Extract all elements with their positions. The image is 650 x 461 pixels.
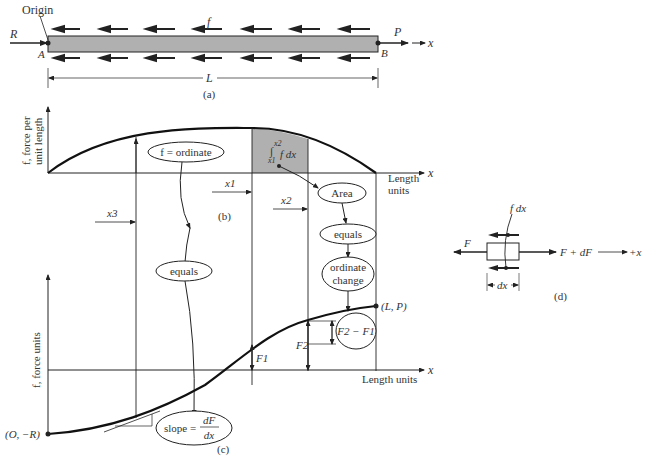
axis-x-label-c: x: [427, 363, 434, 377]
panel-b: x Length units f, force per unit length …: [20, 107, 434, 223]
ordinate-bubble-text: f = ordinate: [160, 146, 212, 158]
axis-x-label-a: x: [427, 36, 434, 50]
axis-x-label-b: x: [427, 166, 434, 180]
origin-leader: [40, 16, 48, 40]
caption-a: (a): [203, 88, 216, 101]
length-label: L: [205, 71, 213, 85]
bar: [48, 36, 378, 52]
ordinate-change-line2: change: [332, 274, 363, 286]
distributed-load-arrows-top: [54, 26, 370, 32]
origin-label: Origin: [22, 3, 53, 17]
point-A: [46, 41, 51, 46]
start-point-label: (O, −R): [5, 428, 40, 441]
xlabel-b-line1: Length: [388, 172, 420, 184]
equals-left-text: equals: [170, 265, 198, 277]
slope-prefix: slope =: [164, 422, 196, 434]
end-point: [374, 304, 379, 309]
caption-d: (d): [554, 290, 567, 303]
slope-denominator: dx: [204, 429, 215, 441]
direction-label: +x: [629, 246, 641, 258]
x3-label: x3: [106, 207, 118, 219]
area-bubble-text: Area: [331, 187, 352, 199]
end-B-label: B: [381, 47, 388, 59]
xlabel-b-line2: units: [388, 184, 409, 196]
ylabel-b-line1: f, force per: [20, 116, 32, 165]
force-R-label: R: [9, 27, 18, 41]
distributed-load-arrows-bottom: [54, 55, 370, 61]
slope-numerator: dF: [203, 414, 216, 426]
equals-right-text: equals: [334, 228, 362, 240]
width-label: dx: [497, 279, 508, 291]
connector-area-to-equals: [342, 203, 346, 223]
force-F-dF-label: F + dF: [559, 246, 592, 258]
connector-ordinate-to-equals: [180, 162, 190, 228]
end-A-label: A: [37, 48, 45, 60]
ylabel-b-line2: unit length: [32, 117, 44, 165]
panel-c: (O, −R) (L, P) x Length units f, force u…: [5, 275, 434, 456]
ylabel-c: f, force units: [30, 332, 42, 388]
start-point: [46, 432, 51, 437]
panel-a: Origin f R P A B x L (a): [9, 3, 434, 101]
ordinate-change-line1: ordinate: [330, 261, 366, 273]
integrand: f dx: [280, 148, 296, 160]
integral-upper: x2: [273, 139, 282, 148]
diff-bubble-text: F2 − F1: [336, 325, 374, 337]
element-box: [487, 243, 519, 260]
F2-label: F2: [295, 339, 309, 351]
panel-d: F F + dF +x f dx dx (d): [454, 202, 641, 303]
x1-label: x1: [224, 177, 235, 189]
end-point-label: (L, P): [381, 300, 407, 313]
force-P-label: P: [393, 25, 402, 39]
load-label-d: f dx: [510, 202, 526, 214]
x2-label: x2: [280, 194, 292, 206]
caption-c: (c): [217, 443, 230, 456]
caption-b: (b): [218, 210, 231, 223]
tangent-line: [104, 411, 160, 432]
xlabel-c: Length units: [362, 373, 417, 385]
F1-label: F1: [255, 352, 268, 364]
beam-load-diagram: Origin f R P A B x L (a) x Length units …: [0, 0, 650, 461]
point-B: [376, 41, 381, 46]
force-F-label: F: [463, 237, 471, 249]
integral-lower: x1: [267, 156, 276, 165]
load-label: f: [207, 15, 212, 29]
